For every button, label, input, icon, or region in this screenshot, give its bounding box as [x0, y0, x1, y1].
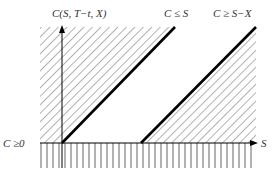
infeasible-region-negative — [41, 143, 251, 168]
lower-bound-label: C ≥ S−X — [213, 7, 253, 19]
option-bounds-diagram: C(S, T−t, X) C ≤ S C ≥ S−X C ≥0 S — [0, 0, 280, 182]
y-axis-label: C(S, T−t, X) — [52, 7, 107, 20]
upper-bound-label: C ≤ S — [164, 7, 189, 19]
nonnegative-label: C ≥0 — [3, 137, 25, 149]
x-axis-label: S — [261, 137, 267, 149]
